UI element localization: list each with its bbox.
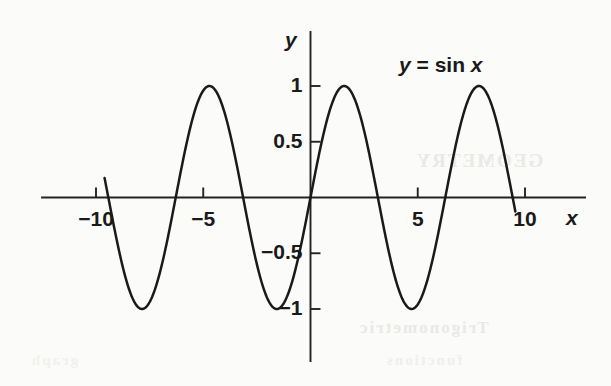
plot-canvas bbox=[0, 0, 611, 386]
y-axis-label: y bbox=[285, 28, 297, 52]
y-tick-label: −0.5 bbox=[261, 240, 302, 264]
equation-var-y: y bbox=[399, 53, 411, 76]
x-tick-label: 10 bbox=[513, 207, 536, 231]
sine-graph-figure: GEOMETRY Trigonometric functions graph −… bbox=[0, 0, 611, 386]
equation-function-name: sin bbox=[435, 53, 465, 76]
y-tick-label: 1 bbox=[291, 73, 303, 97]
x-tick-label: −10 bbox=[78, 207, 114, 231]
equation-var-x: x bbox=[471, 53, 483, 76]
equation-annotation: y = sin x bbox=[399, 53, 483, 77]
x-tick-label: 5 bbox=[412, 207, 424, 231]
y-tick-label: 0.5 bbox=[273, 129, 302, 153]
equation-equals-sign: = bbox=[417, 53, 429, 76]
x-tick-label: −5 bbox=[191, 207, 215, 231]
y-tick-label: −1 bbox=[279, 296, 303, 320]
x-axis-label: x bbox=[566, 206, 578, 230]
